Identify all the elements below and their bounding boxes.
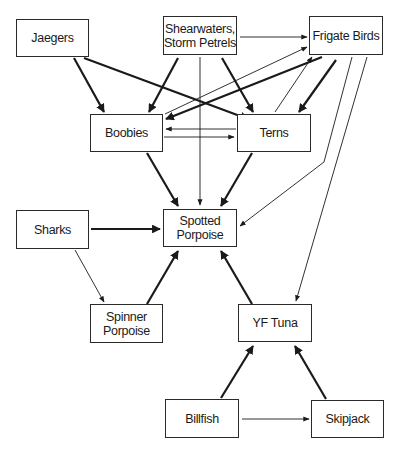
edge-shearwaters-to-boobies	[149, 58, 178, 112]
node-label: Billfish	[185, 412, 219, 426]
edge-frigate-to-yftuna	[296, 57, 367, 301]
edge-frigate-to-boobies	[166, 57, 322, 119]
node-sharks: Sharks	[16, 210, 89, 249]
edge-boobies-to-frigate	[165, 47, 307, 114]
node-frigate: Frigate Birds	[309, 16, 383, 55]
edge-billfish-to-yftuna	[221, 346, 253, 398]
node-label: YF Tuna	[252, 316, 297, 330]
edge-boobies-to-spotted	[147, 153, 178, 206]
edge-sharks-to-spinner	[75, 250, 104, 302]
node-label: Frigate Birds	[313, 29, 380, 43]
edge-yftuna-to-spotted	[221, 251, 252, 304]
node-boobies: Boobies	[90, 114, 163, 152]
node-label: Jaegers	[31, 31, 73, 45]
node-shearwaters: Shearwaters, Storm Petrels	[163, 16, 237, 55]
node-label: Sharks	[34, 223, 71, 237]
node-label: Spinner Porpoise	[103, 310, 150, 338]
node-yftuna: YF Tuna	[238, 304, 312, 342]
node-billfish: Billfish	[165, 399, 239, 438]
edge-terns-to-spotted	[221, 153, 252, 206]
node-label: Skipjack	[325, 412, 369, 426]
node-label: Shearwaters, Storm Petrels	[164, 22, 236, 50]
node-terns: Terns	[237, 114, 311, 152]
edge-jaegers-to-terns	[84, 58, 248, 119]
node-spotted: Spotted Porpoise	[163, 209, 237, 247]
node-spinner: Spinner Porpoise	[90, 304, 163, 343]
edge-terns-to-frigate	[275, 57, 312, 112]
edge-jaegers-to-boobies	[74, 58, 104, 112]
edge-spinner-to-spotted	[147, 251, 178, 304]
edge-skipjack-to-yftuna	[295, 346, 326, 399]
node-label: Spotted Porpoise	[177, 214, 224, 242]
node-jaegers: Jaegers	[16, 19, 89, 57]
node-label: Terns	[259, 126, 288, 140]
node-label: Boobies	[105, 126, 148, 140]
node-skipjack: Skipjack	[311, 400, 384, 438]
